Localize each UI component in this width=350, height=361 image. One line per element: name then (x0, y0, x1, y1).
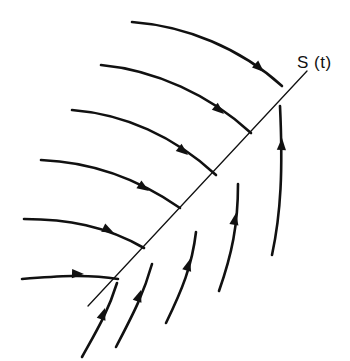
shock-line (88, 71, 307, 306)
wavefront-arcs-group (22, 22, 282, 279)
labels-group: S (t) (297, 53, 332, 72)
char-curve-2 (116, 264, 152, 347)
shock-line-group (88, 71, 307, 306)
char-curve-5-arrow-icon (277, 138, 287, 150)
char-curve-4-arrow-icon (229, 212, 240, 225)
arc-3 (72, 110, 216, 175)
wavefront-diagram: S (t) (0, 0, 350, 361)
arc-6 (22, 276, 118, 279)
arc-5 (24, 219, 144, 248)
diagram-canvas: S (t) (0, 0, 350, 361)
char-curve-3 (166, 232, 196, 323)
char-curve-4 (219, 184, 238, 291)
char-curve-5 (272, 106, 281, 255)
shock-line-label: S (t) (297, 53, 332, 72)
arc-5-arrow-icon (101, 224, 116, 238)
char-curve-3-arrow-icon (182, 258, 194, 272)
characteristic-curves-group (82, 106, 287, 357)
arc-4 (41, 160, 180, 208)
arc-2 (101, 65, 251, 133)
